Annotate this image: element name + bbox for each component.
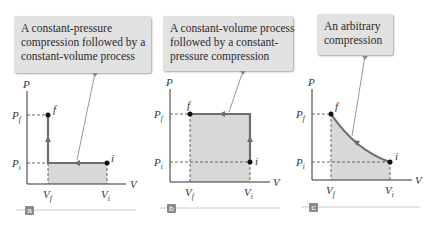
callout-pointer-tip: [240, 71, 246, 75]
state-f: [329, 112, 334, 117]
vf-label: Vf: [185, 186, 195, 201]
callout-pointer: [77, 73, 95, 160]
state-i: [105, 161, 110, 166]
panel-badge-a: a: [25, 206, 34, 215]
panel-c: P V Pf Pi Vf Vi f i: [295, 56, 423, 207]
pi-label: Pi: [295, 156, 305, 171]
vi-label: Vi: [101, 188, 110, 203]
pi-label: Pi: [153, 156, 163, 171]
p-label: P: [307, 76, 315, 88]
panel-badge-c: c: [309, 203, 318, 212]
p-label: P: [22, 78, 30, 90]
work-area: [48, 163, 107, 184]
callout-pointer: [352, 56, 365, 136]
vi-label: Vi: [244, 186, 253, 201]
state-f: [188, 112, 193, 117]
p-label: P: [165, 76, 173, 88]
pi-label: Pi: [11, 157, 21, 172]
panel-a: P V Pf Pi Vf Vi f i: [11, 73, 138, 210]
pf-label: Pf: [153, 108, 164, 123]
f-label: f: [335, 100, 340, 112]
v-label: V: [415, 174, 423, 186]
vf-label: Vf: [43, 188, 53, 203]
v-label: V: [273, 176, 281, 188]
pf-label: Pf: [11, 109, 22, 124]
i-label: i: [255, 155, 258, 167]
pf-label: Pf: [295, 108, 306, 123]
panel-b: P V Pf Pi Vf Vi f i: [153, 71, 281, 208]
state-f: [46, 113, 51, 118]
vf-label: Vf: [326, 184, 336, 199]
i-label: i: [395, 150, 398, 162]
panel-badge-b: b: [167, 204, 176, 213]
vi-label: Vi: [385, 184, 394, 199]
callout-pointer-tip: [92, 73, 98, 77]
arrow-icon: [45, 136, 51, 142]
state-i: [248, 160, 253, 165]
state-i: [388, 160, 393, 165]
callout-pointer-tip: [362, 56, 368, 60]
v-label: V: [130, 178, 138, 190]
callout-pointer: [229, 71, 243, 112]
work-area: [190, 114, 250, 182]
pv-diagrams: P V Pf Pi Vf Vi f i P V Pf Pi Vf Vi f i: [0, 0, 429, 226]
f-label: f: [53, 103, 58, 115]
i-label: i: [111, 152, 114, 164]
f-label: f: [187, 99, 192, 111]
